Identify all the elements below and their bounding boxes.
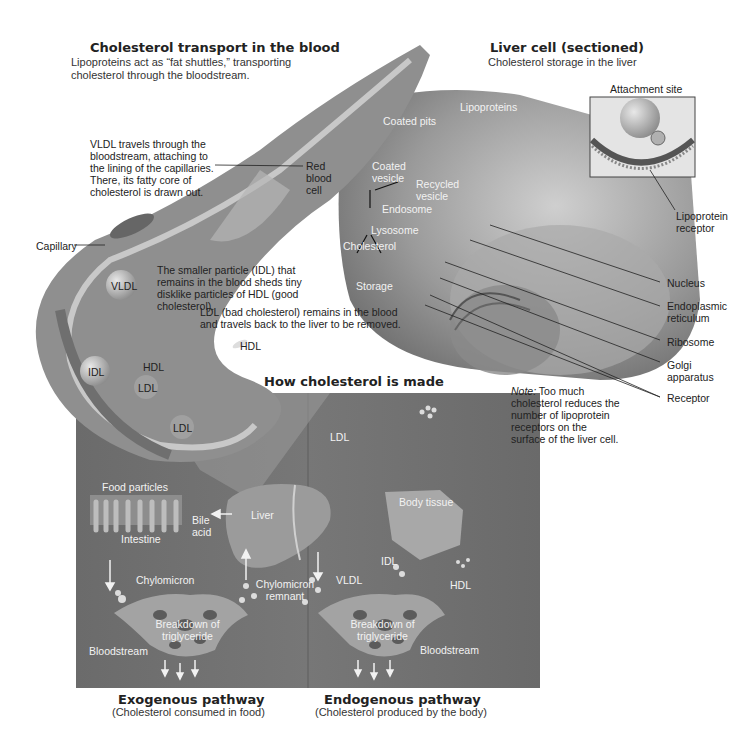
hdl-label: HDL: [450, 579, 471, 591]
chylomicron-remnant-label: Chylomicron remnant: [255, 578, 315, 602]
nucleus-label: Nucleus: [667, 277, 705, 289]
ldl-particle-label: LDL: [138, 382, 157, 394]
body-tissue-label: Body tissue: [399, 496, 453, 508]
nucleus-shape: [450, 285, 560, 375]
liver-cell-title: Liver cell (sectioned): [490, 40, 644, 55]
receptor-label: Receptor: [667, 392, 710, 404]
liver-cell-subtitle: Cholesterol storage in the liver: [488, 56, 637, 69]
liver-label: Liver: [251, 509, 274, 521]
vldl-label: VLDL: [336, 574, 362, 586]
exogenous-subtitle: (Cholesterol consumed in food): [112, 706, 265, 719]
storage-label: Storage: [356, 280, 393, 292]
ribosome-label: Ribosome: [667, 336, 714, 348]
idl-description: The smaller particle (IDL) that remains …: [157, 264, 322, 312]
red-blood-cell-label: Red blood cell: [306, 160, 336, 196]
made-title: How cholesterol is made: [264, 374, 444, 389]
golgi-apparatus-label: Golgi apparatus: [667, 359, 717, 383]
bloodstream-endogenous-label: Bloodstream: [420, 644, 479, 656]
cholesterol-label: Cholesterol: [343, 240, 396, 252]
breakdown-exogenous-label: Breakdown of triglyceride: [155, 618, 220, 642]
breakdown-endogenous-label: Breakdown of triglyceride: [350, 618, 415, 642]
food-particles-label: Food particles: [102, 481, 168, 493]
bloodstream-exogenous-label: Bloodstream: [89, 645, 148, 657]
chylomicron-label: Chylomicron: [136, 574, 194, 586]
ldl-label: LDL: [330, 431, 349, 443]
endogenous-title: Endogenous pathway: [324, 692, 481, 707]
recycled-vesicle-label: Recycled vesicle: [416, 178, 466, 202]
endoplasmic-reticulum-label: Endoplasmic reticulum: [667, 300, 737, 324]
transport-title: Cholesterol transport in the blood: [90, 40, 340, 55]
coated-pits-label: Coated pits: [383, 115, 436, 127]
transport-subtitle: Lipoproteins act as “fat shuttles,” tran…: [71, 56, 321, 81]
idl-particle-label: IDL: [88, 366, 104, 378]
capillary-label: Capillary: [36, 240, 77, 252]
ldl-description: LDL (bad cholesterol) remains in the blo…: [200, 306, 410, 330]
note: Note: Too much cholesterol reduces the n…: [511, 385, 621, 445]
endosome-label: Endosome: [382, 203, 432, 215]
attachment-site-label: Attachment site: [610, 83, 682, 95]
vldl-particle-label: VLDL: [111, 280, 137, 292]
exogenous-title: Exogenous pathway: [118, 692, 264, 707]
ldl-particle-label-2: LDL: [173, 422, 192, 434]
lipoprotein-receptor-label: Lipoprotein receptor: [676, 210, 736, 234]
lipoproteins-label: Lipoproteins: [460, 101, 517, 113]
bile-acid-label: Bile acid: [192, 514, 217, 538]
endogenous-subtitle: (Cholesterol produced by the body): [315, 706, 487, 719]
hdl-particle-label-2: HDL: [240, 340, 261, 352]
hdl-particle-label: HDL: [143, 361, 164, 373]
note-label: Note:: [511, 385, 536, 397]
idl-label: IDL: [381, 555, 397, 567]
intestine-label: Intestine: [121, 533, 161, 545]
coated-vesicle-label: Coated vesicle: [372, 160, 412, 184]
vldl-description: VLDL travels through the bloodstream, at…: [90, 138, 215, 198]
lysosome-label: Lysosome: [371, 224, 418, 236]
